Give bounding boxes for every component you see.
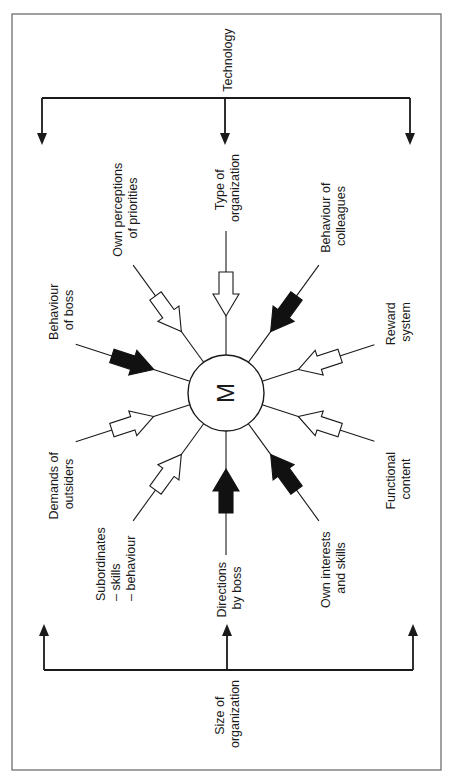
block-arrow-icon bbox=[294, 344, 344, 382]
label-subordinates: Subordinates – skills – behaviour bbox=[94, 524, 138, 601]
block-arrow-icon bbox=[108, 404, 158, 442]
label-own-interests: Own interests and skills bbox=[319, 528, 348, 608]
arrow-down-icon bbox=[405, 133, 415, 145]
arrow-down-icon bbox=[220, 133, 230, 145]
technology-bracket: Technology bbox=[37, 28, 415, 145]
label-type-of-organization: Type of organization bbox=[213, 154, 242, 222]
label-behaviour-of-colleagues: Behaviour of colleagues bbox=[319, 179, 348, 253]
technology-label: Technology bbox=[221, 28, 235, 92]
spoke-functional-content bbox=[258, 392, 378, 453]
label-reward-system: Reward system bbox=[384, 299, 413, 346]
size-bracket: Size of organization bbox=[39, 624, 418, 748]
spoke-behaviour-of-boss bbox=[72, 332, 194, 394]
block-arrow-icon bbox=[108, 344, 158, 382]
label-functional-content: Functional content bbox=[384, 448, 413, 509]
arrow-up-icon bbox=[222, 624, 232, 636]
size-label: Size of organization bbox=[213, 680, 242, 748]
arrow-up-icon bbox=[39, 624, 49, 636]
block-arrow-icon bbox=[213, 469, 239, 513]
label-own-perceptions: Own perceptions of priorities bbox=[111, 159, 140, 256]
hub-label: M bbox=[212, 383, 239, 403]
spoke-demands-of-outsiders bbox=[72, 392, 194, 454]
block-arrow-icon bbox=[294, 404, 344, 442]
block-arrow-icon bbox=[145, 447, 192, 498]
block-arrow-icon bbox=[260, 447, 307, 498]
management-influences-diagram: Technology Size of organization bbox=[0, 0, 451, 779]
block-arrow-icon bbox=[145, 288, 192, 339]
arrow-down-icon bbox=[37, 133, 47, 145]
label-demands-of-outsiders: Demands of outsiders bbox=[47, 449, 76, 520]
spoke-directions-by-boss bbox=[213, 431, 239, 555]
arrow-up-icon bbox=[408, 624, 418, 636]
label-directions-by-boss: Directions by boss bbox=[215, 558, 244, 617]
spoke-reward-system bbox=[258, 332, 378, 393]
hub-manager: M bbox=[188, 355, 264, 431]
label-behaviour-of-boss: Behaviour of boss bbox=[47, 280, 76, 340]
spoke-type-of-organization bbox=[213, 231, 239, 355]
block-arrow-icon bbox=[213, 272, 239, 316]
block-arrow-icon bbox=[260, 288, 307, 339]
